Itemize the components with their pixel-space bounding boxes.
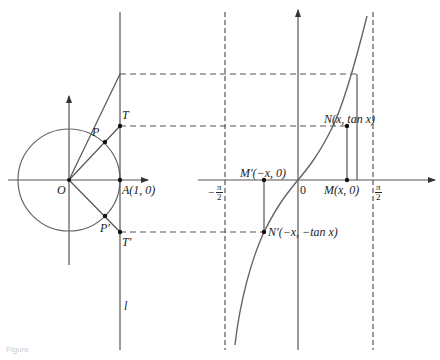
label-neg-sign: − (208, 187, 214, 198)
label-T-prime: T′ (122, 236, 131, 248)
label-pos-half-pi: π 2 (375, 183, 382, 202)
point-O (67, 178, 71, 182)
label-N-prime: N′(−x, −tan x) (268, 226, 338, 238)
point-A (118, 178, 122, 182)
label-N: N(x, tan x) (324, 113, 375, 125)
tangent-diagram (0, 0, 440, 360)
label-P: P (92, 126, 99, 138)
label-line-l: l (124, 300, 127, 312)
figure-caption: Figure (6, 345, 29, 354)
point-P-prime (103, 214, 107, 218)
points (67, 124, 349, 234)
projection-lines (120, 74, 357, 232)
pos-half-pi-den: 2 (375, 193, 382, 202)
label-A: A(1, 0) (122, 184, 155, 196)
label-P-prime: P′ (100, 222, 110, 234)
point-M (345, 178, 349, 182)
label-M-prime: M′(−x, 0) (240, 167, 286, 179)
point-T-prime (118, 230, 122, 234)
label-M: M(x, 0) (324, 184, 359, 196)
tan-graph-panel (198, 10, 435, 350)
label-O: O (57, 184, 66, 196)
neg-half-pi-den: 2 (216, 193, 223, 202)
point-N-prime (262, 230, 266, 234)
point-P (103, 140, 107, 144)
label-T: T (122, 109, 129, 121)
label-origin-0: 0 (300, 184, 306, 196)
label-neg-half-pi: π 2 (216, 183, 223, 202)
point-T (118, 124, 122, 128)
